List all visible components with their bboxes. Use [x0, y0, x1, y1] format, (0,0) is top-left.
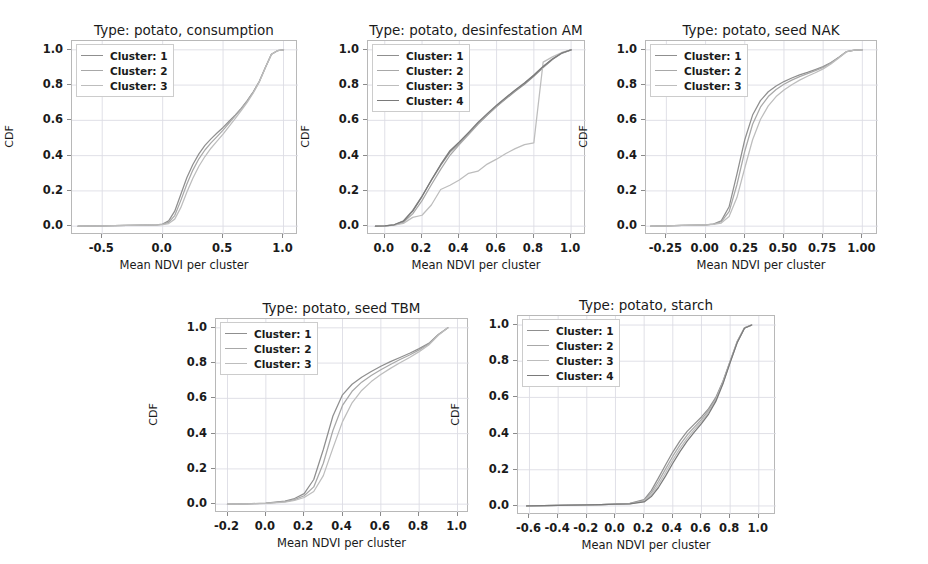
legend-item: Cluster: 1 — [527, 323, 614, 338]
legend-line-swatch — [527, 330, 549, 331]
x-axis-label: Mean NDVI per cluster — [517, 538, 775, 552]
panel-starch: Type: potato, starch0.00.20.40.60.81.0-0… — [0, 0, 928, 564]
y-tickmark — [513, 324, 517, 325]
y-tickmark — [513, 433, 517, 434]
y-tick-label: 0.8 — [455, 353, 509, 367]
legend-item: Cluster: 3 — [527, 353, 614, 368]
y-tickmark — [513, 396, 517, 397]
x-tickmark — [614, 514, 615, 518]
y-tick-label: 1.0 — [455, 317, 509, 331]
legend-line-swatch — [527, 360, 549, 361]
legend: Cluster: 1Cluster: 2Cluster: 3Cluster: 4 — [522, 319, 620, 387]
legend-line-swatch — [527, 345, 549, 346]
x-tick-label: 0.2 — [633, 521, 653, 535]
y-tickmark — [513, 505, 517, 506]
legend-label: Cluster: 1 — [556, 325, 614, 337]
legend-label: Cluster: 3 — [556, 355, 614, 367]
figure-canvas: Type: potato, consumption0.00.20.40.60.8… — [0, 0, 928, 564]
legend-item: Cluster: 4 — [527, 368, 614, 383]
x-tick-label: -0.2 — [573, 521, 598, 535]
y-tick-label: 0.2 — [455, 462, 509, 476]
x-tickmark — [557, 514, 558, 518]
legend-line-swatch — [527, 375, 549, 376]
x-tick-label: 1.0 — [748, 521, 768, 535]
x-tickmark — [700, 514, 701, 518]
y-tickmark — [513, 469, 517, 470]
x-tickmark — [586, 514, 587, 518]
y-tick-label: 0.0 — [455, 498, 509, 512]
x-tickmark — [643, 514, 644, 518]
y-tick-label: 0.4 — [455, 426, 509, 440]
x-tickmark — [672, 514, 673, 518]
y-tick-label: 0.6 — [455, 389, 509, 403]
x-tickmark — [729, 514, 730, 518]
x-tickmark — [528, 514, 529, 518]
legend-label: Cluster: 2 — [556, 340, 614, 352]
x-tick-label: -0.6 — [516, 521, 541, 535]
x-tickmark — [758, 514, 759, 518]
x-tick-label: 0.0 — [604, 521, 624, 535]
y-axis-label: CDF — [449, 394, 462, 434]
y-tickmark — [513, 360, 517, 361]
legend-label: Cluster: 4 — [556, 370, 614, 382]
x-tick-label: 0.6 — [690, 521, 710, 535]
x-tick-label: 0.8 — [719, 521, 739, 535]
panel-title: Type: potato, starch — [517, 297, 775, 313]
x-tick-label: -0.4 — [545, 521, 570, 535]
x-tick-label: 0.4 — [662, 521, 682, 535]
legend-item: Cluster: 2 — [527, 338, 614, 353]
